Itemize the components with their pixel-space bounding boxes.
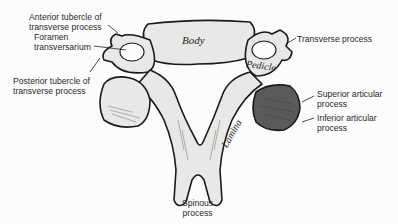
callout-transverse-process: Transverse process: [297, 34, 372, 44]
left-superior-articular-process: [100, 77, 150, 127]
callout-superior-articular: Superior articular process: [317, 89, 382, 109]
left-foramen-transversarium: [120, 43, 144, 61]
callout-foramen-transversarium: Foramen transversarium: [34, 32, 91, 52]
callout-inferior-articular: Inferior articular process: [317, 113, 377, 133]
callout-anterior-tubercle: Anterior tubercle of transverse process: [29, 12, 102, 32]
vertebral-arch: [136, 70, 262, 206]
right-superior-articular-process: [253, 85, 300, 130]
vertebra-diagram: Body Pedicle Lamina Anterior tubercle of…: [0, 0, 398, 224]
right-foramen-transversarium: [252, 41, 276, 59]
callout-spinous-process: Spinous process: [182, 198, 213, 218]
label-body: Body: [182, 34, 205, 46]
callout-posterior-tubercle: Posterior tubercle of transverse process: [13, 76, 90, 96]
